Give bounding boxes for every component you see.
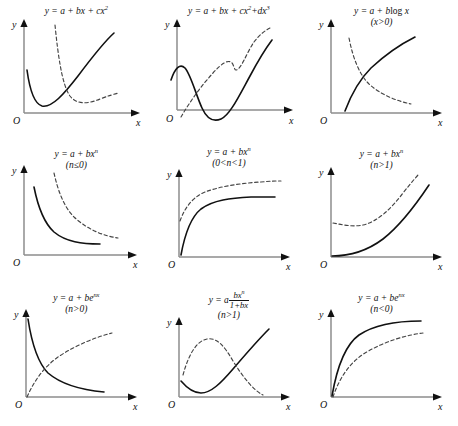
figure-grid: y = a + bx + cx2 O x y y = a + bx + cx2+… bbox=[0, 0, 458, 426]
panel-9-solid-curve bbox=[332, 321, 421, 396]
x-axis-label: x bbox=[132, 259, 138, 270]
x-axis-arrow bbox=[128, 393, 137, 400]
panel-9: y = a + benx (n<0) O x y bbox=[305, 287, 458, 426]
panel-7-solid-curve bbox=[28, 319, 104, 392]
panel-6: y = a + bxn (n>1) O x y bbox=[305, 145, 458, 287]
panel-3-plot: O x y bbox=[305, 0, 458, 145]
origin-label: O bbox=[13, 115, 20, 126]
x-axis-arrow bbox=[433, 109, 442, 116]
panel-7: y = a + benx (n>0) O x y bbox=[0, 287, 153, 426]
panel-1-solid-curve bbox=[27, 33, 114, 106]
panel-4: y = a + bxn (n≤0) O x y bbox=[0, 145, 153, 287]
y-axis-label: y bbox=[13, 309, 19, 320]
panel-8-plot: O x y bbox=[153, 287, 306, 426]
y-axis-arrow bbox=[22, 309, 29, 317]
panel-2-plot: O x y bbox=[153, 0, 306, 145]
x-axis-label: x bbox=[285, 401, 291, 412]
x-axis-label: x bbox=[132, 401, 138, 412]
x-axis-arrow bbox=[128, 251, 137, 258]
y-axis-arrow bbox=[173, 19, 180, 27]
y-axis-arrow bbox=[175, 169, 182, 177]
y-axis-arrow bbox=[20, 19, 27, 27]
panel-3-dashed-curve bbox=[349, 38, 411, 104]
x-axis-label: x bbox=[285, 261, 291, 272]
panel-4-solid-curve bbox=[34, 187, 100, 244]
x-axis-label: x bbox=[437, 401, 443, 412]
panel-8: y = abxn1+bx (n>1) O x y bbox=[153, 287, 306, 426]
origin-label: O bbox=[168, 399, 175, 410]
x-axis-label: x bbox=[288, 115, 294, 126]
panel-8-solid-curve bbox=[181, 329, 269, 393]
panel-6-dashed-curve bbox=[333, 174, 419, 226]
panel-7-plot: O x y bbox=[0, 287, 153, 426]
y-axis-label: y bbox=[11, 165, 17, 176]
panel-9-plot: O x y bbox=[305, 287, 458, 426]
y-axis-label: y bbox=[318, 19, 324, 30]
panel-2-solid-curve bbox=[171, 40, 272, 120]
x-axis-arrow bbox=[433, 393, 442, 400]
panel-1-plot: O x y bbox=[0, 0, 153, 145]
panel-1: y = a + bx + cx2 O x y bbox=[0, 0, 153, 145]
x-axis-label: x bbox=[437, 117, 443, 128]
y-axis-label: y bbox=[164, 19, 170, 30]
panel-5: y = a + bxn (0<n<1) O x y bbox=[153, 145, 306, 287]
panel-4-plot: O x y bbox=[0, 145, 153, 287]
x-axis-arrow bbox=[281, 253, 290, 260]
origin-label: O bbox=[15, 399, 22, 410]
y-axis-label: y bbox=[166, 317, 172, 328]
x-axis-label: x bbox=[437, 261, 443, 272]
origin-label: O bbox=[13, 257, 20, 268]
y-axis-arrow bbox=[20, 165, 27, 173]
x-axis-arrow bbox=[284, 106, 293, 113]
origin-label: O bbox=[320, 399, 327, 410]
panel-5-plot: O x y bbox=[153, 145, 306, 287]
panel-2-dashed-curve bbox=[181, 28, 270, 117]
origin-label: O bbox=[168, 259, 175, 270]
origin-label: O bbox=[320, 259, 327, 270]
panel-3-solid-curve bbox=[345, 37, 415, 111]
x-axis-arrow bbox=[131, 109, 140, 116]
y-axis-arrow bbox=[328, 309, 335, 317]
origin-label: O bbox=[320, 115, 327, 126]
panel-4-dashed-curve bbox=[54, 173, 118, 238]
panel-6-solid-curve bbox=[332, 185, 429, 256]
y-axis-label: y bbox=[318, 167, 324, 178]
y-axis-label: y bbox=[11, 19, 17, 30]
y-axis-arrow bbox=[328, 19, 335, 27]
panel-2: y = a + bx + cx2+dx3 O x y bbox=[153, 0, 306, 145]
panel-6-plot: O x y bbox=[305, 145, 458, 287]
y-axis-arrow bbox=[328, 167, 335, 175]
panel-3: y = a + blog x (x>0) O x y bbox=[305, 0, 458, 145]
panel-9-dashed-curve bbox=[333, 333, 423, 397]
y-axis-label: y bbox=[166, 169, 172, 180]
x-axis-arrow bbox=[281, 393, 290, 400]
origin-label: O bbox=[166, 113, 173, 124]
panel-7-dashed-curve bbox=[27, 333, 112, 397]
x-axis-arrow bbox=[433, 253, 442, 260]
y-axis-label: y bbox=[318, 309, 324, 320]
x-axis-label: x bbox=[135, 117, 141, 128]
y-axis-arrow bbox=[175, 317, 182, 325]
panel-5-solid-curve bbox=[181, 197, 275, 255]
